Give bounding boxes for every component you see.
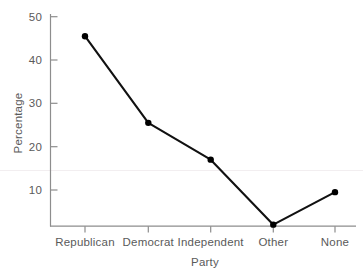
data-point-democrat xyxy=(145,120,151,126)
data-point-markers xyxy=(82,33,338,228)
x-tick-label-other: Other xyxy=(258,236,288,248)
x-axis-title: Party xyxy=(191,256,219,268)
data-line xyxy=(85,36,335,224)
line-chart: 50 40 30 20 10 Republican Democrat Indep… xyxy=(0,0,363,279)
data-point-other xyxy=(270,221,276,227)
data-point-independent xyxy=(208,156,214,162)
x-axis-ticks xyxy=(85,226,335,232)
y-tick-label-50: 50 xyxy=(10,11,42,23)
x-tick-label-republican: Republican xyxy=(55,236,115,248)
data-point-none xyxy=(332,189,338,195)
y-axis-title: Percentage xyxy=(12,93,24,154)
x-tick-label-independent: Independent xyxy=(178,236,244,248)
y-tick-label-10: 10 xyxy=(10,184,42,196)
data-point-republican xyxy=(82,33,88,39)
x-tick-label-democrat: Democrat xyxy=(123,236,174,248)
x-tick-label-none: None xyxy=(321,236,349,248)
y-tick-label-40: 40 xyxy=(10,54,42,66)
y-axis-ticks xyxy=(51,17,58,190)
